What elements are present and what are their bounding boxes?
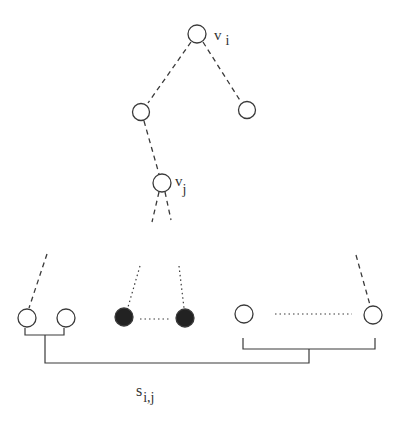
node-right-child	[239, 102, 256, 119]
node-v-j	[153, 174, 171, 192]
label-v-i-main: v	[214, 27, 222, 43]
edge-to-leaf-4	[356, 255, 370, 305]
label-v-j-sub: j	[182, 182, 187, 197]
edge-vi-left	[148, 42, 191, 103]
tree-diagram: vi vj si,j	[0, 0, 406, 440]
label-s-ij: si,j	[136, 382, 155, 405]
edge-vi-right	[203, 42, 241, 102]
bracket-left	[25, 328, 64, 335]
edge-vj-down-left	[152, 192, 159, 222]
node-leaf-3	[235, 305, 253, 323]
edge-left-vj	[144, 121, 159, 174]
label-s-sub: i,j	[143, 390, 154, 405]
node-leaf-1	[18, 309, 36, 327]
edge-vj-down-right	[165, 192, 171, 220]
label-s-main: s	[136, 382, 142, 399]
bracket-right	[243, 338, 375, 349]
dotted-edge-filled-1	[128, 266, 140, 307]
node-leaf-2	[57, 309, 75, 327]
node-filled-2	[176, 309, 194, 327]
node-filled-1	[115, 308, 133, 326]
edge-to-leaf-1	[29, 254, 47, 308]
node-leaf-4	[364, 306, 382, 324]
node-left-child	[133, 104, 150, 121]
node-v-i	[188, 25, 206, 43]
label-v-j: vj	[175, 173, 186, 197]
label-v-i: vi	[214, 27, 230, 48]
label-v-i-sub: i	[226, 33, 230, 48]
dotted-edge-filled-2	[179, 266, 184, 308]
